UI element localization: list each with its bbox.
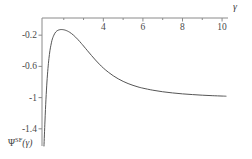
y-tick-label: -1 bbox=[4, 93, 37, 103]
y-axis-label: ΨSF(γ) bbox=[8, 136, 32, 148]
x-axis-label: γ bbox=[233, 1, 237, 12]
plot-figure: 46810 -0.2-0.6-1-1.4 γ ΨSF(γ) bbox=[0, 0, 252, 159]
y-tick-label: -0.2 bbox=[4, 30, 37, 40]
x-tick-label: 6 bbox=[141, 22, 146, 32]
x-tick-label: 4 bbox=[101, 22, 106, 32]
x-axis-ticks bbox=[64, 18, 222, 22]
x-tick-label: 10 bbox=[217, 22, 227, 32]
y-axis-label-symbol: Ψ bbox=[8, 138, 15, 148]
plot-canvas bbox=[0, 0, 252, 159]
y-axis-ticks bbox=[39, 35, 43, 129]
data-series-line bbox=[44, 30, 226, 146]
y-axis-label-argument: (γ) bbox=[22, 138, 32, 148]
y-tick-label: -0.6 bbox=[4, 61, 37, 71]
axes-group bbox=[39, 18, 229, 146]
y-tick-label: -1.4 bbox=[4, 124, 37, 134]
x-tick-label: 8 bbox=[180, 22, 185, 32]
